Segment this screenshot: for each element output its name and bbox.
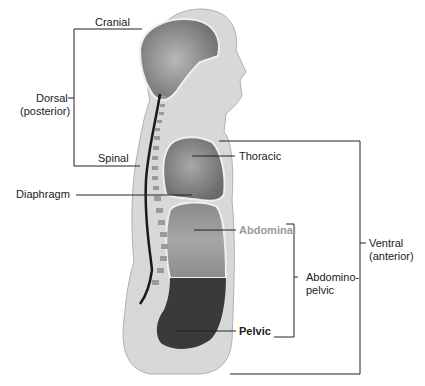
- label-spinal: Spinal: [98, 152, 129, 165]
- abdominal-cavity: [166, 203, 226, 278]
- label-dorsal: Dorsal: [36, 92, 68, 105]
- label-thoracic: Thoracic: [239, 150, 281, 163]
- label-abdominal: Abdominal: [239, 224, 296, 237]
- label-ventral: Ventral: [369, 237, 403, 250]
- label-dorsal-posterior: (posterior): [20, 105, 70, 118]
- label-abdominopelvic-2: pelvic: [306, 284, 334, 297]
- label-abdominopelvic: Abdomino-: [306, 271, 359, 284]
- thoracic-cavity: [163, 137, 224, 201]
- label-ventral-anterior: (anterior): [369, 250, 414, 263]
- label-cranial: Cranial: [95, 16, 130, 29]
- label-pelvic: Pelvic: [239, 325, 271, 338]
- label-diaphragm: Diaphragm: [16, 188, 70, 201]
